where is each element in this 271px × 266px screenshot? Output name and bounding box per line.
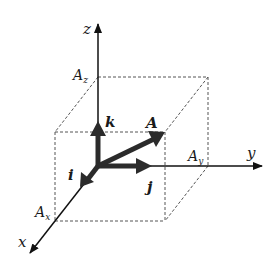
vector-diagram: z y x Az Ay Ax k j i A	[0, 0, 271, 266]
vector-A-label: A	[144, 114, 158, 132]
z-axis-label: z	[82, 20, 91, 38]
j-label: j	[144, 178, 153, 196]
axes	[30, 24, 262, 253]
y-axis-label: y	[246, 144, 256, 162]
Az-label: Az	[71, 67, 88, 85]
j-arrowhead-icon	[136, 158, 152, 174]
k-arrowhead-icon	[90, 121, 106, 136]
i-label: i	[68, 166, 74, 184]
x-axis-label: x	[18, 233, 27, 251]
k-label: k	[105, 113, 115, 131]
Ax-label: Ax	[33, 204, 50, 222]
Ay-label: Ay	[186, 148, 204, 166]
